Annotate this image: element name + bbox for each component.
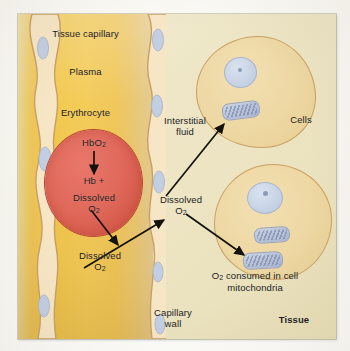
o2-interstitial-subscript: 2 — [183, 209, 187, 216]
label-hbo2: HbO2 — [44, 137, 144, 151]
label-dissolved-interstitial: Dissolved — [136, 194, 226, 206]
label-interstitial-fluid-line1: Interstitial — [146, 115, 224, 127]
label-dissolved-plasma: Dissolved — [55, 250, 145, 262]
figure-plate: Tissue capillary Plasma Erythrocyte HbO2… — [18, 14, 336, 339]
cristae — [246, 254, 281, 267]
o2-rbc-subscript: 2 — [96, 207, 100, 214]
o2-plasma-text: O — [94, 261, 102, 272]
cell-nucleus — [224, 57, 257, 88]
label-hb-plus: Hb + — [44, 175, 144, 187]
label-o2-plasma: O2 — [55, 261, 145, 275]
label-capillary-wall-line2: wall — [130, 318, 216, 330]
cell-nucleus — [247, 182, 283, 214]
label-o2-rbc: O2 — [44, 203, 144, 217]
o2-plasma-subscript: 2 — [102, 265, 106, 272]
hbo2-subscript: 2 — [102, 141, 106, 148]
o2-rbc-text: O — [88, 203, 96, 214]
label-cells: Cells — [276, 114, 326, 126]
label-o2-consumed-line2: mitochondria — [180, 282, 330, 294]
tissue-cell-lower — [214, 164, 332, 280]
label-plasma: Plasma — [18, 66, 153, 78]
label-o2-interstitial: O2 — [136, 205, 226, 219]
label-capillary-wall-line1: Capillary — [130, 307, 216, 319]
nucleolus — [238, 68, 242, 72]
o2-interstitial-text: O — [175, 205, 183, 216]
label-tissue-capillary: Tissue capillary — [18, 28, 153, 40]
cristae — [257, 229, 288, 241]
hbo2-text: HbO — [82, 137, 102, 148]
label-dissolved-rbc: Dissolved — [39, 192, 149, 204]
nucleolus — [263, 191, 268, 196]
cristae — [224, 103, 257, 118]
label-tissue: Tissue — [264, 314, 324, 326]
mitochondrion — [253, 226, 290, 244]
consumed-rest-text: consumed in cell — [223, 270, 298, 281]
label-interstitial-fluid-line2: fluid — [146, 126, 224, 138]
mitochondrion — [243, 251, 284, 270]
label-erythrocyte: Erythrocyte — [18, 107, 153, 119]
diagram-canvas: Tissue capillary Plasma Erythrocyte HbO2… — [0, 0, 350, 351]
